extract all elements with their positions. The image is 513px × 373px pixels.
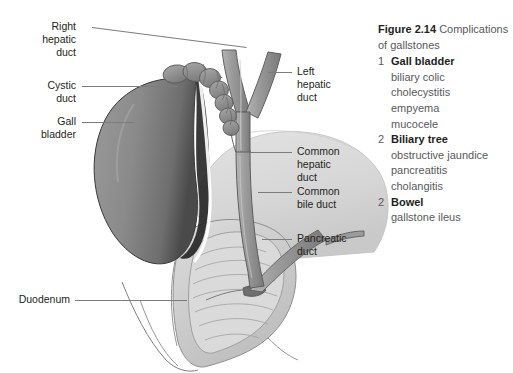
callout-gall-bladder: Gall bladder [8, 115, 76, 141]
leader-cystic-duct [82, 86, 178, 87]
callout-common-bile-duct: Common bile duct [297, 185, 371, 211]
complication-item: empyema [391, 101, 510, 117]
complication-group: 1Gall bladderbiliary coliccholecystitise… [378, 54, 510, 132]
complication-body: Gall bladderbiliary coliccholecystitisem… [391, 54, 510, 132]
complication-item: cholangitis [391, 179, 510, 195]
complication-item: gallstone ileus [391, 210, 510, 226]
complication-title: Biliary tree [391, 132, 510, 148]
complication-item: cholecystitis [391, 85, 510, 101]
complication-number: 1 [378, 54, 391, 70]
figure-caption-block: Figure 2.14 Complications of gallstones … [378, 22, 510, 226]
complication-item: obstructive jaundice [391, 148, 510, 164]
figure-caption-text: Complications [439, 23, 508, 35]
complication-number: 2 [378, 132, 391, 148]
complications-list: 1Gall bladderbiliary coliccholecystitise… [378, 54, 510, 226]
callout-common-hepatic-duct: Common hepatic duct [297, 145, 371, 185]
leader-duodenum [75, 300, 187, 301]
figure-caption-heading: Figure 2.14 Complications of gallstones [378, 22, 510, 53]
figure-caption-line2: of gallstones [378, 38, 510, 54]
complication-title: Gall bladder [391, 54, 510, 70]
leader-common-bile-duct [258, 192, 292, 193]
complication-body: Biliary treeobstructive jaundicepancreat… [391, 132, 510, 194]
figure-container: Right hepatic duct Cystic duct Gall blad… [0, 0, 513, 373]
complication-group: 2Biliary treeobstructive jaundicepancrea… [378, 132, 510, 194]
callout-right-hepatic-duct: Right hepatic duct [8, 20, 76, 60]
gall-bladder-organ [94, 78, 210, 264]
leader-gall-bladder [82, 122, 134, 123]
callout-pancreatic-duct: Pancreatic duct [297, 232, 371, 258]
leader-pancreatic-duct [262, 239, 292, 240]
leader-left-hepatic-duct [268, 72, 292, 73]
complication-item: biliary colic [391, 70, 510, 86]
complication-body: Bowelgallstone ileus [391, 195, 510, 226]
callout-duodenum: Duodenum [2, 293, 70, 306]
callout-left-hepatic-duct: Left hepatic duct [297, 65, 371, 105]
complication-number: 2 [378, 195, 391, 211]
complication-group: 2Bowelgallstone ileus [378, 195, 510, 226]
complication-title: Bowel [391, 195, 510, 211]
leader-common-hepatic-duct [250, 152, 292, 153]
callout-cystic-duct: Cystic duct [8, 79, 76, 105]
complication-item: pancreatitis [391, 163, 510, 179]
complication-item: mucocele [391, 117, 510, 133]
figure-label: Figure 2.14 [378, 23, 436, 35]
